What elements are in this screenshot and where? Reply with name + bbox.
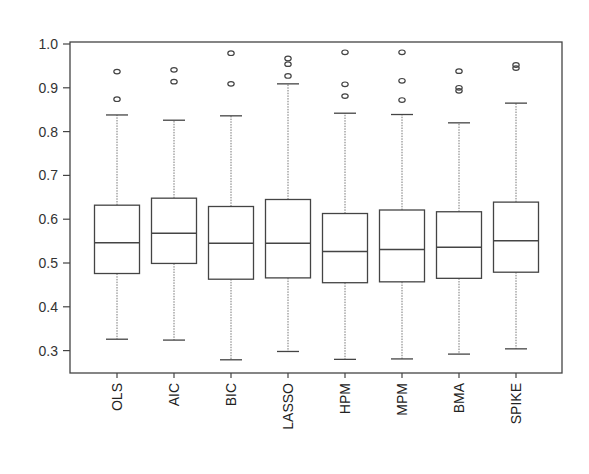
y-tick-label: 0.5 [39, 255, 59, 271]
x-category-label: LASSO [280, 383, 296, 430]
y-tick-label: 0.8 [39, 124, 59, 140]
box-spike [494, 63, 539, 349]
box-mpm [380, 50, 425, 359]
outlier-point [399, 98, 405, 103]
outlier-point [342, 50, 348, 55]
iqr-box [323, 214, 368, 283]
outlier-point [171, 68, 177, 73]
outlier-point [285, 74, 291, 79]
boxplot-chart: 0.30.40.50.60.70.80.91.0 OLSAICBICLASSOH… [0, 0, 589, 474]
outlier-point [228, 82, 234, 87]
y-axis: 0.30.40.50.60.70.80.91.0 [39, 36, 70, 359]
y-tick-label: 0.7 [39, 167, 59, 183]
outlier-point [228, 51, 234, 56]
iqr-box [494, 202, 539, 272]
boxes [95, 50, 539, 360]
iqr-box [437, 212, 482, 279]
box-lasso [266, 56, 311, 351]
box-hpm [323, 50, 368, 359]
x-category-label: AIC [166, 383, 182, 406]
outlier-point [285, 62, 291, 67]
outlier-point [114, 97, 120, 102]
y-tick-label: 1.0 [39, 36, 59, 52]
outlier-point [456, 86, 462, 91]
box-aic [152, 68, 197, 341]
outlier-point [456, 69, 462, 74]
iqr-box [95, 205, 140, 273]
iqr-box [380, 210, 425, 282]
outlier-point [114, 69, 120, 74]
outlier-point [342, 82, 348, 87]
x-axis: OLSAICBICLASSOHPMMPMBMASPIKE [109, 373, 524, 430]
y-tick-label: 0.9 [39, 80, 59, 96]
x-category-label: BIC [223, 383, 239, 406]
plot-frame [70, 42, 562, 373]
y-tick-label: 0.3 [39, 343, 59, 359]
y-tick-label: 0.6 [39, 211, 59, 227]
box-ols [95, 69, 140, 339]
box-bic [209, 51, 254, 360]
box-bma [437, 69, 482, 354]
outlier-point [171, 79, 177, 84]
x-category-label: MPM [394, 383, 410, 416]
outlier-point [342, 94, 348, 99]
outlier-point [285, 56, 291, 61]
x-category-label: HPM [337, 383, 353, 414]
y-tick-label: 0.4 [39, 299, 59, 315]
outlier-point [399, 50, 405, 55]
plot-border [70, 42, 562, 373]
outlier-point [399, 78, 405, 83]
x-category-label: SPIKE [508, 383, 524, 424]
x-category-label: BMA [451, 382, 467, 413]
iqr-box [266, 199, 311, 277]
iqr-box [152, 198, 197, 263]
x-category-label: OLS [109, 383, 125, 411]
outlier-point [513, 63, 519, 68]
